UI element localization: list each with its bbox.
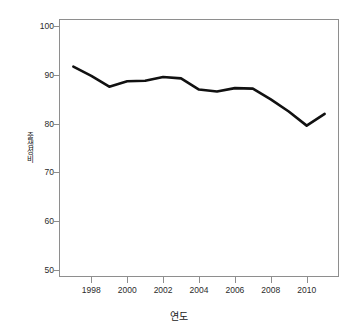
- line-chart: 5060708090100 19982000200220042006200820…: [0, 0, 358, 335]
- x-tick-label: 2002: [143, 285, 183, 295]
- x-axis-title: 연도: [0, 308, 358, 323]
- x-tick-mark: [127, 277, 128, 283]
- x-tick-mark: [91, 277, 92, 283]
- y-axis-title: 출생성비: [18, 132, 32, 162]
- x-tick-label: 2004: [179, 285, 219, 295]
- x-tick-mark: [307, 277, 308, 283]
- x-tick-label: 2000: [107, 285, 147, 295]
- x-axis-ticks: 1998200020022004200620082010: [0, 0, 358, 335]
- x-tick-label: 2008: [251, 285, 291, 295]
- x-tick-label: 1998: [71, 285, 111, 295]
- x-tick-mark: [235, 277, 236, 283]
- x-tick-mark: [271, 277, 272, 283]
- x-tick-mark: [163, 277, 164, 283]
- x-tick-mark: [199, 277, 200, 283]
- x-tick-label: 2006: [215, 285, 255, 295]
- x-tick-label: 2010: [287, 285, 327, 295]
